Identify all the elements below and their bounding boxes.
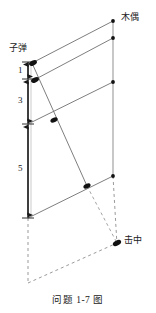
figure-caption: 问题 1-7 图 (0, 292, 156, 306)
label-hit: 击中 (124, 236, 142, 245)
frame-line-1 (32, 21, 113, 63)
dimension-label-5: 5 (18, 164, 23, 173)
figure-container: 子弹 木偶 击中 1 3 5 问题 1-7 图 (0, 0, 156, 313)
marker-puppet-top (111, 19, 115, 23)
point-markers (28, 19, 122, 247)
marker-cross-3 (50, 116, 59, 123)
right-axis-dashed-extension (113, 176, 117, 245)
marker-hit-point (112, 239, 122, 247)
trajectory-dashed-segment (87, 186, 117, 243)
frame-lines (28, 21, 113, 218)
left-measure-axis (22, 62, 37, 218)
dimension-label-3: 3 (18, 96, 23, 105)
frame-line-3 (28, 82, 113, 124)
bottom-dashed-connector (28, 243, 117, 283)
label-puppet: 木偶 (121, 13, 139, 22)
trajectory-solid-segment (32, 63, 87, 186)
dimension-label-1: 1 (18, 66, 23, 75)
bullet-trajectory (32, 63, 117, 243)
marker-puppet-4 (111, 174, 115, 178)
frame-line-4 (28, 176, 113, 218)
lower-dashed-frame (28, 176, 117, 283)
marker-puppet-2 (111, 36, 115, 40)
frame-line-2 (34, 38, 113, 80)
marker-puppet-3 (111, 80, 115, 84)
label-bullet: 子弹 (9, 44, 27, 53)
